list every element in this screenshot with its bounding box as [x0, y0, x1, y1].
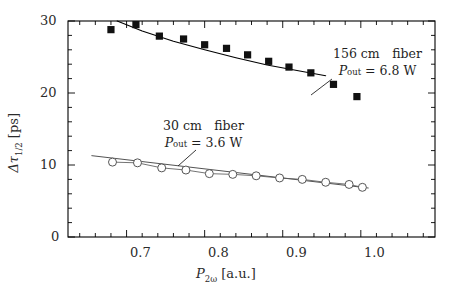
- y-axis-title-wrapper: Δτ1/2 [ps]: [2, 86, 28, 206]
- x-axis-title-unit: [a.u.]: [217, 266, 256, 281]
- annotation-30cm-line1: 30 cm fiber: [163, 118, 244, 135]
- y-axis-title: Δτ1/2 [ps]: [6, 83, 24, 203]
- x-axis-title-symbol: P: [196, 266, 205, 281]
- x-tick-label-0.8: 0.8: [208, 245, 229, 260]
- y-tick-label-10: 10: [40, 157, 57, 172]
- annotation-30cm-power-subscript: out: [173, 139, 187, 149]
- y-axis-title-symbol: Δτ: [6, 156, 21, 173]
- annotation-30cm-fiber: 30 cm fiber Pout = 3.6 W: [163, 118, 244, 152]
- y-tick-label-0: 0: [51, 229, 59, 244]
- x-tick-label-0.9: 0.9: [286, 245, 307, 260]
- figure-container: 0 10 20 30 0.7 0.8 0.9 1.0 P2ω [a.u.] Δτ…: [0, 0, 462, 292]
- annotation-30cm-power-symbol: P: [165, 135, 173, 150]
- y-tick-label-20: 20: [40, 85, 57, 100]
- x-tick-label-0.7: 0.7: [130, 245, 151, 260]
- data-markers-156cm: [107, 21, 360, 100]
- y-tick-label-30: 30: [40, 13, 57, 28]
- y-axis-title-unit: [ps]: [6, 113, 21, 142]
- annotation-156cm-line1: 156 cm fiber: [333, 46, 422, 63]
- annotation-156cm-line2: Pout = 6.8 W: [333, 63, 422, 80]
- y-axis-title-subscript: 1/2: [14, 142, 24, 156]
- fit-curve-156cm: [117, 21, 325, 76]
- annotation-30cm-line2: Pout = 3.6 W: [163, 135, 244, 152]
- x-axis-title: P2ω [a.u.]: [196, 266, 256, 284]
- annotation-156cm-power-subscript: out: [347, 67, 361, 77]
- annotation-156cm-fiber: 156 cm fiber Pout = 6.8 W: [333, 46, 422, 80]
- annotation-156cm-power-symbol: P: [339, 63, 347, 78]
- annotation-156cm-power-value: = 6.8 W: [361, 63, 416, 78]
- x-axis-title-subscript: 2ω: [205, 274, 217, 284]
- x-tick-label-1.0: 1.0: [364, 245, 385, 260]
- annotation-30cm-power-value: = 3.6 W: [187, 135, 242, 150]
